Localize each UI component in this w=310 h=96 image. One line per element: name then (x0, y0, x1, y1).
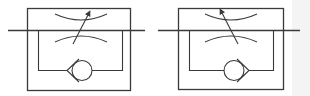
throttle-curve-top (55, 14, 107, 20)
throttle-curve-bottom (205, 36, 257, 42)
flow-control-valve-right (158, 9, 300, 90)
check-valve-seat-icon (237, 59, 249, 82)
bypass-line-left (39, 31, 68, 71)
valve-envelope (28, 9, 131, 91)
bypass-line-right (92, 31, 123, 71)
hydraulic-diagram (0, 0, 310, 96)
flow-control-valve-left (8, 9, 145, 91)
throttle-curve-top (205, 14, 257, 20)
adjustable-arrow-icon (73, 13, 89, 44)
throttle-curve-bottom (55, 36, 107, 42)
valve-envelope (179, 9, 284, 90)
bypass-line-right (249, 31, 274, 71)
bypass-line-left (190, 31, 225, 71)
check-valve-seat-icon (67, 59, 79, 82)
diagram-canvas: one-way flow control valve one-way flow … (0, 0, 310, 96)
adjustable-arrow-icon (221, 11, 238, 44)
